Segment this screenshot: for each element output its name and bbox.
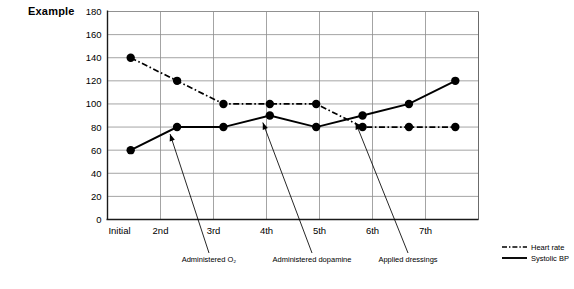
data-point-marker xyxy=(405,100,413,108)
data-point-marker xyxy=(266,111,274,119)
data-point-marker xyxy=(126,146,134,154)
grid-lines xyxy=(108,12,479,220)
annotation-arrow-head xyxy=(263,123,268,131)
y-tick-label: 100 xyxy=(86,98,102,109)
chart-root: Example 180160140120100806040200 Initial… xyxy=(0,0,574,289)
series-systolic-bp xyxy=(126,77,459,155)
data-point-marker xyxy=(173,77,181,85)
annotation-leader-line xyxy=(356,123,408,254)
legend-label: Heart rate xyxy=(531,243,564,252)
data-point-marker xyxy=(312,123,320,131)
x-tick-label: 6th xyxy=(366,225,379,236)
annotation-arrow-head xyxy=(170,134,175,141)
data-point-marker xyxy=(173,123,181,131)
y-axis-tick-labels: 180160140120100806040200 xyxy=(86,6,102,225)
data-point-marker xyxy=(219,123,227,131)
data-point-marker xyxy=(126,54,134,62)
y-tick-label: 80 xyxy=(91,122,102,133)
x-tick-label: 2nd xyxy=(153,225,169,236)
legend-label: Systolic BP xyxy=(531,254,569,263)
line-chart: 180160140120100806040200 Initial2nd3rd4t… xyxy=(0,0,574,289)
axis-lines xyxy=(107,11,479,220)
data-point-marker xyxy=(312,100,320,108)
series-line xyxy=(131,81,456,150)
data-point-marker xyxy=(451,123,459,131)
data-point-marker xyxy=(405,123,413,131)
x-tick-label: 5th xyxy=(313,225,326,236)
y-tick-label: 180 xyxy=(86,6,102,17)
y-tick-label: 60 xyxy=(91,145,102,156)
x-axis-tick-labels: Initial2nd3rd4th5th6th7th xyxy=(108,225,432,236)
series-line xyxy=(131,58,456,127)
y-tick-label: 140 xyxy=(86,52,102,63)
y-tick-label: 0 xyxy=(96,214,101,225)
x-tick-label: 3rd xyxy=(207,225,221,236)
x-tick-label: Initial xyxy=(108,225,130,236)
y-tick-label: 40 xyxy=(91,168,102,179)
y-tick-label: 20 xyxy=(91,191,102,202)
annotation-label: Applied dressings xyxy=(378,255,437,264)
annotation-leader-line xyxy=(170,134,209,253)
chart-legend: Heart rateSystolic BP xyxy=(502,243,569,263)
data-point-marker xyxy=(219,100,227,108)
data-point-marker xyxy=(266,100,274,108)
series-heart-rate xyxy=(126,54,459,132)
annotation-label: Administered dopamine xyxy=(273,255,352,264)
x-tick-label: 4th xyxy=(260,225,273,236)
x-tick-label: 7th xyxy=(419,225,432,236)
y-tick-label: 120 xyxy=(86,75,102,86)
annotation-leaders: Administered O₂Administered dopamineAppl… xyxy=(170,123,438,265)
y-tick-label: 160 xyxy=(86,29,102,40)
data-point-marker xyxy=(358,111,366,119)
data-point-marker xyxy=(451,77,459,85)
annotation-label: Administered O₂ xyxy=(182,255,237,264)
